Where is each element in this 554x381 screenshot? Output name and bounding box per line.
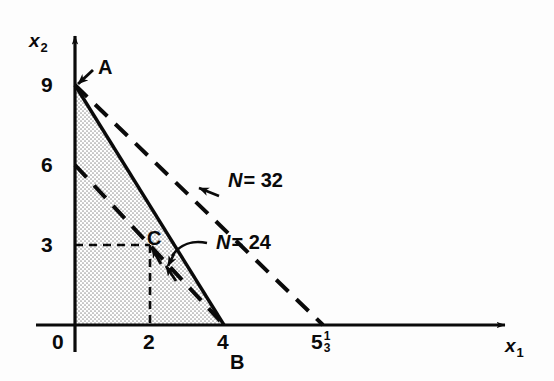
objective-label-n32: N= 32 [228, 170, 283, 190]
vertex-label-c: C [147, 228, 161, 248]
y-tick-label-6: 6 [41, 154, 53, 175]
objective-n24-variable: N [216, 231, 231, 253]
fraction-denominator: 3 [324, 342, 331, 354]
pointer-to-vertex-a [78, 70, 93, 84]
vertex-label-a: A [98, 57, 112, 77]
x-tick-label-5-and-one-third: 513 [311, 331, 330, 356]
objective-n24-value: = 24 [231, 231, 270, 253]
x-tick-label-4: 4 [217, 331, 229, 352]
y-tick-label-3: 3 [41, 234, 53, 255]
x-tick-whole: 5 [311, 330, 323, 353]
x-axis-subscript: 1 [516, 345, 524, 360]
objective-n32-value: = 32 [243, 169, 282, 191]
y-tick-label-9: 9 [41, 74, 53, 95]
origin-label: 0 [52, 331, 64, 352]
y-axis-subscript: 2 [40, 40, 48, 55]
y-axis-title: x2 [29, 31, 48, 54]
objective-n32-variable: N [228, 169, 243, 191]
x-tick-label-2: 2 [143, 331, 155, 352]
linear-programming-figure: 9 6 3 0 2 4 513 A B C x2 x1 N= 32 N= 24 [0, 0, 554, 381]
leader-to-n32-line [199, 188, 219, 196]
objective-label-n24: N= 24 [216, 232, 271, 252]
y-axis-variable: x [29, 30, 40, 51]
x-tick-fraction: 13 [323, 330, 331, 354]
x-axis-variable: x [505, 335, 516, 356]
x-axis-title: x1 [505, 336, 524, 359]
vertex-label-b: B [230, 352, 244, 372]
